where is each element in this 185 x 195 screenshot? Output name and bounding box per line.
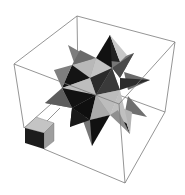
small-cube	[25, 108, 60, 149]
stellated-dodecahedron	[45, 35, 150, 146]
polyhedron-graphic	[0, 0, 185, 195]
polyhedron-figure	[0, 0, 185, 195]
